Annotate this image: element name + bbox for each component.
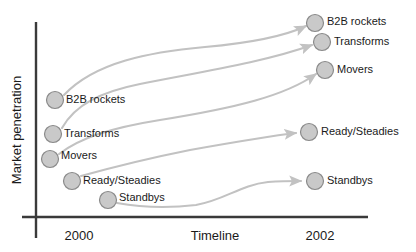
node-2000-b2b-rockets[interactable]: B2B rockets (47, 92, 126, 109)
node-circle-icon[interactable] (45, 126, 62, 143)
node-label: Ready/Steadies (321, 125, 399, 137)
chart-canvas: Market penetration Timeline 2000 2002 B2… (0, 0, 416, 252)
node-label: Ready/Steadies (83, 174, 161, 186)
x-tick-label-2002: 2002 (306, 228, 335, 243)
node-label: Standbys (327, 174, 373, 186)
segment-migration-chart: Market penetration Timeline 2000 2002 B2… (0, 0, 416, 252)
node-circle-icon[interactable] (307, 173, 324, 190)
node-circle-icon[interactable] (317, 62, 334, 79)
flow-arrow-b2b-rockets (64, 26, 306, 95)
node-2000-movers[interactable]: Movers (42, 149, 98, 168)
x-axis-title: Timeline (191, 228, 240, 243)
flow-arrow-ready-steadies (81, 133, 296, 176)
node-label: B2B rockets (327, 15, 387, 27)
node-circle-icon[interactable] (301, 124, 318, 141)
node-2002-standbys[interactable]: Standbys (307, 173, 374, 190)
nodes-2002-group: B2B rockets Transforms Movers Ready/Stea… (301, 15, 400, 190)
node-circle-icon[interactable] (42, 151, 59, 168)
node-label: Transforms (334, 35, 390, 47)
node-2002-movers[interactable]: Movers (317, 62, 374, 79)
y-axis-title: Market penetration (9, 76, 24, 184)
node-circle-icon[interactable] (47, 92, 64, 109)
node-2002-transforms[interactable]: Transforms (314, 34, 390, 51)
node-label: Movers (61, 149, 98, 161)
node-circle-icon[interactable] (314, 34, 331, 51)
node-label: Movers (337, 63, 374, 75)
nodes-2000-group: B2B rockets Transforms Movers Ready/Stea… (42, 92, 166, 209)
node-2002-ready-steadies[interactable]: Ready/Steadies (301, 124, 400, 141)
node-circle-icon[interactable] (64, 173, 81, 190)
node-label: Transforms (64, 127, 120, 139)
node-label: Standbys (119, 191, 165, 203)
node-2000-ready-steadies[interactable]: Ready/Steadies (64, 173, 162, 190)
node-circle-icon[interactable] (100, 192, 117, 209)
node-circle-icon[interactable] (307, 15, 324, 32)
node-2002-b2b-rockets[interactable]: B2B rockets (307, 15, 387, 32)
x-tick-label-2000: 2000 (65, 228, 94, 243)
node-label: B2B rockets (66, 93, 126, 105)
flow-arrow-movers (59, 74, 316, 154)
